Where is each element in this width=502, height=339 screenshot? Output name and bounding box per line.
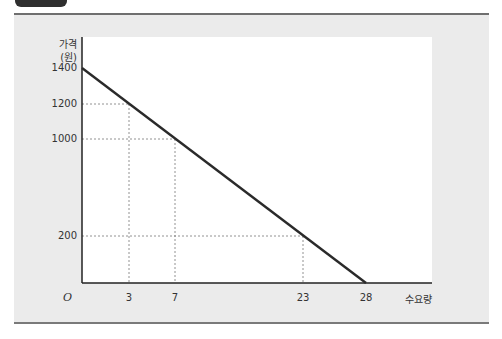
x-axis-title: 수요량 [405,291,432,306]
demand-line [82,68,366,283]
x-tick-3: 3 [114,292,144,303]
y-tick-1400: 1400 [37,62,77,73]
y-tick-200: 200 [37,230,77,241]
x-tick-7: 7 [160,292,190,303]
origin-label: O [63,291,72,304]
y-tick-1000: 1000 [37,133,77,144]
x-tick-28: 28 [351,292,381,303]
x-tick-23: 23 [288,292,318,303]
y-tick-1200: 1200 [37,98,77,109]
